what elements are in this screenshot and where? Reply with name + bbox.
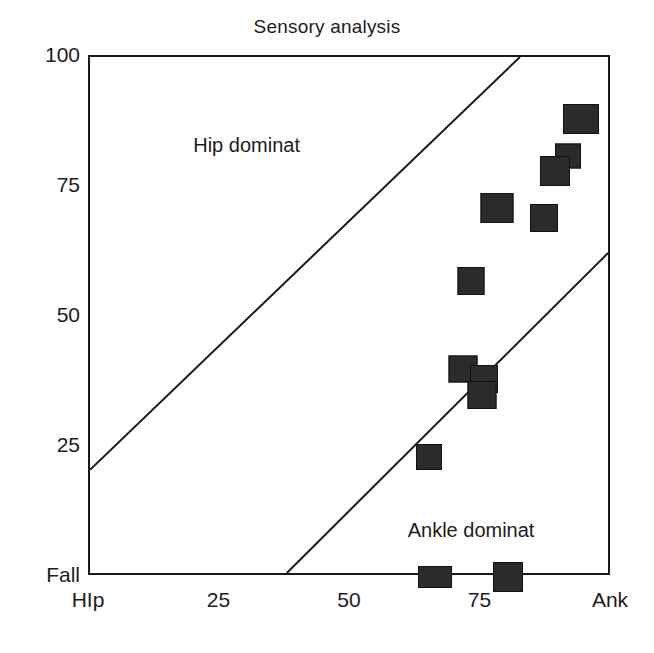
plot-area: Hip dominatAnkle dominat — [88, 55, 610, 575]
data-point — [530, 204, 558, 232]
data-point — [458, 267, 485, 295]
data-point — [416, 444, 442, 470]
plot-lines-layer — [90, 57, 608, 573]
x-tick-ank: Ank — [592, 588, 628, 612]
y-tick-50: 50 — [6, 303, 80, 327]
x-axis-tick-labels: HIp255075Ank — [88, 588, 610, 620]
data-point — [467, 381, 496, 409]
data-point — [481, 193, 514, 223]
hip-boundary — [90, 57, 520, 470]
chart-title: Sensory analysis — [0, 16, 654, 38]
data-point — [540, 156, 570, 186]
data-point — [563, 104, 599, 134]
y-tick-25: 25 — [6, 433, 80, 457]
ankle-dominat-label: Ankle dominat — [408, 519, 535, 542]
data-point — [418, 566, 452, 588]
x-tick-75: 75 — [468, 588, 491, 612]
x-tick-25: 25 — [207, 588, 230, 612]
y-tick-75: 75 — [6, 173, 80, 197]
x-tick-50: 50 — [337, 588, 360, 612]
hip-dominat-label: Hip dominat — [193, 134, 300, 157]
sensory-analysis-figure: Sensory analysis Fall255075100 Hip domin… — [0, 0, 654, 653]
y-tick-fall: Fall — [6, 563, 80, 587]
y-tick-100: 100 — [6, 43, 80, 67]
x-tick-hip: HIp — [72, 588, 105, 612]
y-axis-tick-labels: Fall255075100 — [0, 55, 80, 575]
